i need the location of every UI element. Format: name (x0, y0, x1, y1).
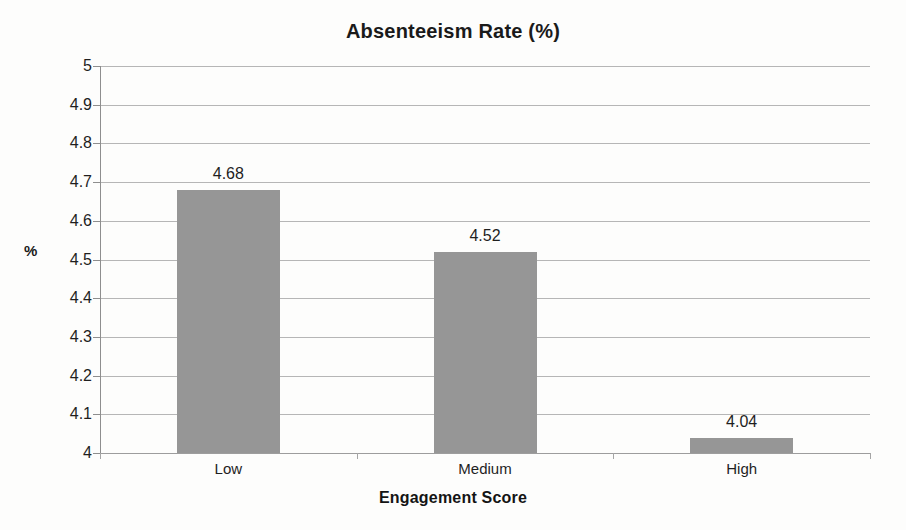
gridline (100, 66, 870, 67)
y-axis-tick-label: 4.8 (44, 134, 92, 152)
x-axis-tick (357, 453, 358, 459)
y-axis-line (100, 66, 101, 454)
y-axis-tick (93, 182, 100, 183)
y-axis-tick (93, 337, 100, 338)
y-axis-tick-label: 4.2 (44, 367, 92, 385)
gridline (100, 453, 870, 454)
x-axis-tick (100, 453, 101, 459)
y-axis-tick-label: 4.3 (44, 328, 92, 346)
x-axis-tick-label: Medium (415, 460, 555, 477)
y-axis-tick (93, 105, 100, 106)
y-axis-tick (93, 66, 100, 67)
y-axis-tick (93, 221, 100, 222)
x-axis-tick (613, 453, 614, 459)
y-axis-tick-label: 4.9 (44, 96, 92, 114)
gridline (100, 105, 870, 106)
y-axis-tick (93, 376, 100, 377)
y-axis-tick (93, 260, 100, 261)
plot-area (100, 66, 870, 453)
y-axis-tick-label: 4.1 (44, 405, 92, 423)
y-axis-tick-label: 4.7 (44, 173, 92, 191)
bar-high[interactable] (690, 438, 793, 453)
bar-medium[interactable] (434, 252, 537, 453)
x-axis-tick-label: High (672, 460, 812, 477)
y-axis-tick-label: 5 (44, 57, 92, 75)
y-axis-tick (93, 143, 100, 144)
x-axis-title: Engagement Score (0, 489, 906, 507)
bar-value-label: 4.52 (435, 227, 535, 245)
y-axis-tick (93, 414, 100, 415)
x-axis-tick-label: Low (158, 460, 298, 477)
y-axis-tick (93, 453, 100, 454)
y-axis-tick-label: 4 (44, 444, 92, 462)
bar-value-label: 4.68 (178, 165, 278, 183)
bar-value-label: 4.04 (692, 413, 792, 431)
y-axis-title: % (24, 242, 37, 259)
y-axis-tick-label: 4.6 (44, 212, 92, 230)
bar-low[interactable] (177, 190, 280, 453)
chart-title: Absenteeism Rate (%) (0, 20, 906, 43)
gridline (100, 143, 870, 144)
y-axis-tick-labels: 54.94.84.74.64.54.44.34.24.14 (40, 0, 92, 530)
x-axis-tick (870, 453, 871, 459)
y-axis-tick (93, 298, 100, 299)
y-axis-tick-label: 4.4 (44, 289, 92, 307)
y-axis-tick-label: 4.5 (44, 251, 92, 269)
chart-figure: Absenteeism Rate (%) 54.94.84.74.64.54.4… (0, 0, 906, 530)
